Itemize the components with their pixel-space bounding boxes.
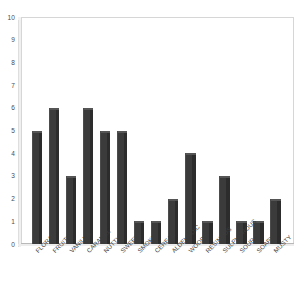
y-tick-label: 10 [8, 14, 15, 21]
bar-top-face [84, 108, 94, 110]
bar-top-face [118, 131, 128, 133]
bar-body [32, 131, 43, 245]
y-axis: 109876543210 [0, 0, 18, 307]
bar-chart-figure: 109876543210 FLORALFRUITYVANILLACARAMELN… [0, 0, 302, 307]
y-tick-label: 6 [11, 104, 15, 111]
y-tick-label: 9 [11, 36, 15, 43]
x-axis: FLORALFRUITYVANILLACARAMELNUTTYSWEETSMOK… [21, 245, 302, 307]
bar-top-face [101, 131, 111, 133]
bar [117, 131, 128, 245]
y-tick-label: 2 [11, 195, 15, 202]
bars-layer [21, 17, 294, 244]
bar-top-face [50, 108, 60, 110]
bar [83, 108, 94, 244]
y-tick-label: 0 [11, 241, 15, 248]
bar-body [49, 108, 60, 244]
y-tick-label: 5 [11, 127, 15, 134]
bar-top-face [203, 221, 213, 223]
y-tick-label: 4 [11, 150, 15, 157]
y-tick-label: 7 [11, 82, 15, 89]
bar-top-face [33, 131, 43, 133]
bar-top-face [220, 176, 230, 178]
y-tick-label: 3 [11, 172, 15, 179]
bar [49, 108, 60, 244]
bar-body [83, 108, 94, 244]
y-tick-label: 8 [11, 59, 15, 66]
y-tick-label: 1 [11, 218, 15, 225]
bar [32, 131, 43, 245]
bar-top-face [67, 176, 77, 178]
bar-body [117, 131, 128, 245]
bar-top-face [169, 199, 179, 201]
bar-top-face [152, 221, 162, 223]
bar-top-face [186, 153, 196, 155]
bar-top-face [271, 199, 281, 201]
bar-top-face [135, 221, 145, 223]
